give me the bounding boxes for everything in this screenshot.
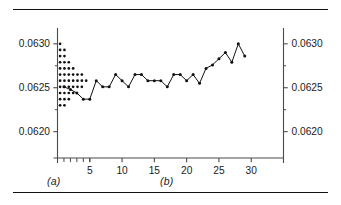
left-tick-label-1: 0.0625 bbox=[19, 82, 50, 93]
line-marker bbox=[179, 73, 182, 76]
line-series bbox=[62, 42, 246, 100]
dotplot-dot bbox=[59, 104, 62, 107]
dotplot-dot bbox=[63, 61, 66, 64]
dotplot-dot bbox=[63, 98, 66, 101]
dotplot-dot bbox=[85, 79, 88, 82]
dotplot-dot bbox=[67, 98, 70, 101]
bottom-axis bbox=[54, 158, 284, 162]
right-tick-labels: 0.06300.06250.0620 bbox=[292, 38, 323, 137]
right-axis bbox=[284, 28, 288, 163]
line-marker bbox=[146, 79, 149, 82]
dotplot-dot bbox=[72, 86, 75, 89]
line-marker bbox=[62, 85, 65, 88]
dotplot-dot bbox=[63, 73, 66, 76]
dotplot-dot bbox=[72, 73, 75, 76]
dotplot-dot bbox=[63, 79, 66, 82]
left-tick-label-2: 0.0620 bbox=[19, 126, 50, 137]
line-marker bbox=[172, 73, 175, 76]
dotplot-dot bbox=[76, 79, 79, 82]
dotplot-dot bbox=[76, 86, 79, 89]
line-marker bbox=[127, 85, 130, 88]
line-marker bbox=[211, 63, 214, 66]
bottom-tick-label-5: 30 bbox=[246, 165, 258, 176]
line-marker bbox=[166, 85, 169, 88]
line-marker bbox=[140, 73, 143, 76]
left-tick-labels: 0.06300.06250.0620 bbox=[19, 38, 50, 137]
line-marker bbox=[185, 79, 188, 82]
line-marker bbox=[69, 88, 72, 91]
dotplot-dot bbox=[76, 73, 79, 76]
line-marker bbox=[243, 55, 246, 58]
line-marker bbox=[192, 73, 195, 76]
bottom-tick-label-2: 15 bbox=[149, 165, 161, 176]
dotplot-dot bbox=[72, 79, 75, 82]
line-marker bbox=[153, 79, 156, 82]
right-tick-label-1: 0.0625 bbox=[292, 82, 323, 93]
dotplot-dot bbox=[59, 73, 62, 76]
dotplot-dot bbox=[81, 73, 84, 76]
dotplot-dot bbox=[59, 67, 62, 70]
left-tick-label-0: 0.0630 bbox=[19, 38, 50, 49]
dotplot-dot bbox=[59, 79, 62, 82]
line-marker bbox=[198, 82, 201, 85]
line-marker bbox=[95, 79, 98, 82]
dotplot-series bbox=[59, 42, 88, 106]
dotplot-dot bbox=[63, 55, 66, 58]
dotplot-dot bbox=[67, 86, 70, 89]
panel-label-a: (a) bbox=[47, 175, 60, 187]
bottom-tick-labels: 51015202530 bbox=[87, 165, 257, 176]
bottom-tick-label-0: 5 bbox=[87, 165, 93, 176]
line-marker bbox=[114, 73, 117, 76]
dotplot-dot bbox=[59, 61, 62, 64]
dotplot-dot bbox=[63, 49, 66, 52]
dotplot-dot bbox=[67, 73, 70, 76]
dotplot-dot bbox=[59, 49, 62, 52]
dotplot-dot bbox=[81, 79, 84, 82]
dotplot-dot bbox=[63, 104, 66, 107]
dotplot-dot bbox=[67, 61, 70, 64]
dotplot-dot bbox=[59, 86, 62, 89]
dotplot-dot bbox=[81, 86, 84, 89]
line-marker bbox=[88, 98, 91, 101]
bottom-tick-label-4: 25 bbox=[213, 165, 225, 176]
line-marker bbox=[159, 79, 162, 82]
dotplot-dot bbox=[67, 67, 70, 70]
dotplot-dot bbox=[59, 92, 62, 95]
figure-container: 0.06300.06250.0620 0.06300.06250.0620 51… bbox=[0, 0, 341, 205]
line-marker bbox=[75, 92, 78, 95]
bottom-tick-label-1: 10 bbox=[116, 165, 128, 176]
left-axis bbox=[53, 28, 57, 163]
line-marker bbox=[108, 85, 111, 88]
dotplot-dot bbox=[59, 42, 62, 45]
dotplot-dot bbox=[59, 55, 62, 58]
line-marker bbox=[121, 79, 124, 82]
line-marker bbox=[230, 61, 233, 64]
dotplot-dot bbox=[67, 92, 70, 95]
panel-label-b: (b) bbox=[160, 175, 173, 187]
line-marker bbox=[237, 42, 240, 45]
dotplot-dot bbox=[59, 98, 62, 101]
line-marker bbox=[224, 51, 227, 54]
dotplot-dot bbox=[63, 67, 66, 70]
line-path bbox=[64, 44, 245, 99]
line-marker bbox=[217, 57, 220, 60]
line-marker bbox=[205, 67, 208, 70]
right-tick-label-0: 0.0630 bbox=[292, 38, 323, 49]
bottom-tick-label-3: 20 bbox=[181, 165, 193, 176]
dotplot-dot bbox=[72, 67, 75, 70]
line-marker bbox=[133, 73, 136, 76]
dotplot-dot bbox=[63, 92, 66, 95]
line-marker bbox=[82, 98, 85, 101]
dotplot-dot bbox=[67, 79, 70, 82]
line-marker bbox=[101, 85, 104, 88]
right-tick-label-2: 0.0620 bbox=[292, 126, 323, 137]
